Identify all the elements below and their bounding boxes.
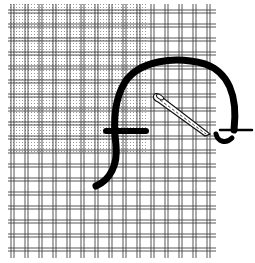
needlework-canvas-figure (0, 0, 255, 263)
